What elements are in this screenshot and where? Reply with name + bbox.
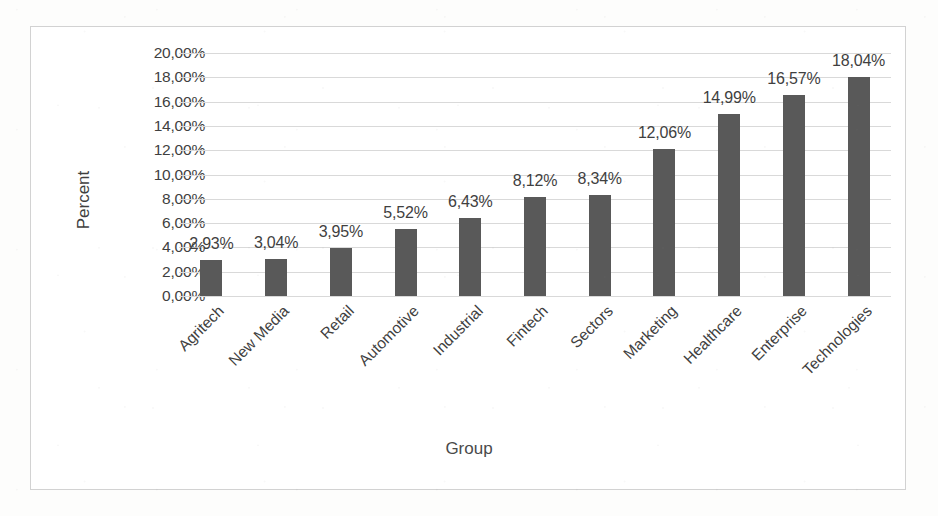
bar[interactable] xyxy=(395,229,417,296)
plot-area: 2,93%3,04%3,95%5,52%6,43%8,12%8,34%12,06… xyxy=(179,53,891,296)
bar[interactable] xyxy=(589,195,611,296)
bar[interactable] xyxy=(653,149,675,296)
bar-value-label: 6,43% xyxy=(427,193,513,211)
bar[interactable] xyxy=(718,114,740,296)
bar[interactable] xyxy=(265,259,287,296)
bar-value-label: 12,06% xyxy=(621,124,707,142)
bar-value-label: 16,57% xyxy=(751,70,837,88)
bar-value-label: 8,34% xyxy=(557,170,643,188)
bar[interactable] xyxy=(848,77,870,296)
bar[interactable] xyxy=(783,95,805,296)
gridline xyxy=(179,53,891,54)
bar-value-label: 14,99% xyxy=(686,89,772,107)
x-axis-tick-labels: AgritechNew MediaRetailAutomotiveIndustr… xyxy=(179,296,891,416)
bar[interactable] xyxy=(330,248,352,296)
bar[interactable] xyxy=(200,260,222,296)
bar-value-label: 3,95% xyxy=(298,223,384,241)
x-axis-title: Group xyxy=(31,439,907,459)
bar[interactable] xyxy=(459,218,481,296)
chart-frame: Percent 20,00%18,00%16,00%14,00%12,00%10… xyxy=(30,26,906,490)
bar-value-label: 18,04% xyxy=(816,52,902,70)
bar[interactable] xyxy=(524,197,546,296)
